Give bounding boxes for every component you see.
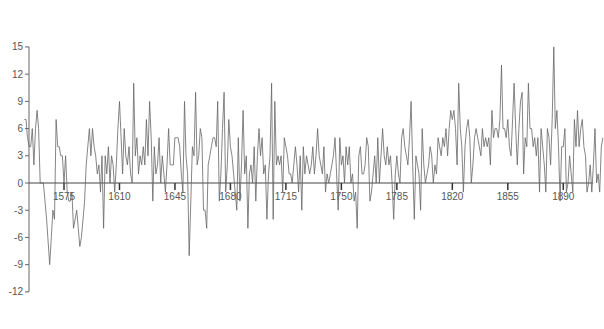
x-tick-label: 1785 — [386, 191, 409, 202]
x-tick-label: 1820 — [441, 191, 464, 202]
y-axis: 15129630-3-6-9-12 — [9, 41, 29, 297]
y-tick-label: 12 — [12, 69, 24, 80]
x-tick-label: 1750 — [330, 191, 353, 202]
y-tick-label: -12 — [9, 286, 24, 297]
data-series — [24, 47, 603, 265]
y-tick-label: 6 — [17, 123, 23, 134]
y-tick-label: -6 — [14, 232, 23, 243]
series-line — [24, 47, 603, 265]
y-tick-label: 0 — [17, 178, 23, 189]
x-axis: 1575161016451680171517501785182018551890 — [29, 183, 593, 202]
y-tick-label: -9 — [14, 259, 23, 270]
y-tick-label: 3 — [17, 150, 23, 161]
x-tick-label: 1855 — [497, 191, 520, 202]
x-tick-label: 1890 — [552, 191, 575, 202]
x-tick-label: 1715 — [275, 191, 298, 202]
x-tick-label: 1610 — [108, 191, 131, 202]
y-tick-label: -3 — [14, 205, 23, 216]
x-tick-label: 1680 — [219, 191, 242, 202]
y-tick-label: 9 — [17, 96, 23, 107]
x-tick-label: 1645 — [164, 191, 187, 202]
y-tick-label: 15 — [12, 41, 24, 52]
line-chart: 15129630-3-6-9-12 1575161016451680171517… — [0, 0, 604, 329]
